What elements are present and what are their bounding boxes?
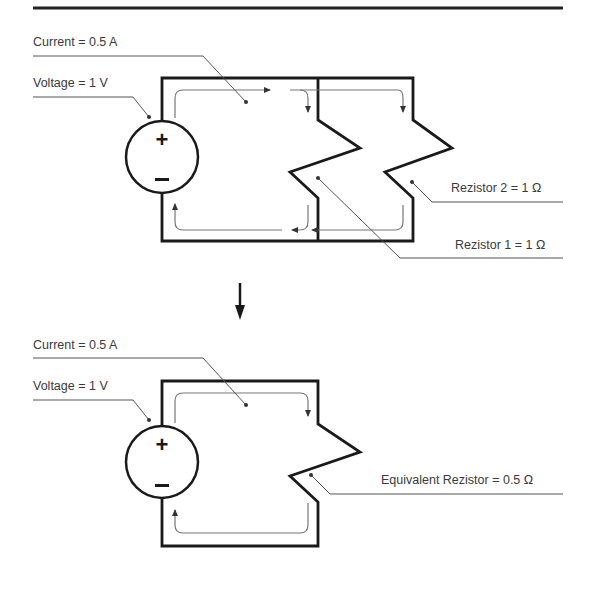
leader-voltage-top bbox=[33, 97, 149, 117]
minus-sign-bottom bbox=[155, 484, 169, 487]
minus-sign-top bbox=[155, 178, 169, 181]
current-label-top: Current = 0.5 A bbox=[33, 35, 117, 49]
leader-voltage-bottom bbox=[33, 400, 149, 420]
resistor2-label: Rezistor 2 = 1 Ω bbox=[451, 181, 541, 195]
plus-sign-top: + bbox=[156, 127, 169, 152]
plus-sign-bottom: + bbox=[156, 432, 169, 457]
down-arrow-icon bbox=[235, 283, 245, 320]
equivalent-resistor-label: Equivalent Rezistor = 0.5 Ω bbox=[381, 473, 533, 487]
voltage-label-top: Voltage = 1 V bbox=[33, 76, 108, 90]
top-wire-upper bbox=[162, 78, 452, 241]
resistor1-label: Rezistor 1 = 1 Ω bbox=[455, 238, 545, 252]
resistor-1 bbox=[290, 78, 360, 241]
voltage-label-bottom: Voltage = 1 V bbox=[33, 379, 108, 393]
current-label-bottom: Current = 0.5 A bbox=[33, 338, 117, 352]
bottom-circuit: + bbox=[33, 358, 563, 546]
top-circuit: + bbox=[33, 56, 563, 258]
